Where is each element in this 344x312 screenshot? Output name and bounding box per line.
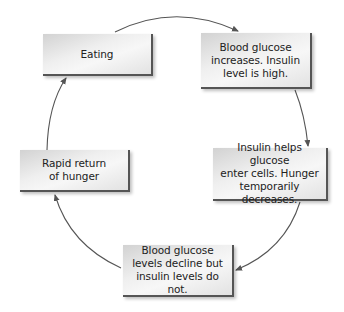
- node-insulin-helps-label: Insulin helps glucose enter cells. Hunge…: [217, 141, 322, 206]
- node-glucose-declines-label: Blood glucose levels decline but insulin…: [127, 244, 228, 296]
- arrow-glucose-increases-to-insulin-helps: [295, 90, 308, 146]
- node-insulin-helps: Insulin helps glucose enter cells. Hunge…: [213, 148, 328, 201]
- arrow-glucose-declines-to-hunger-returns: [55, 195, 121, 268]
- arrow-eating-to-glucose-increases: [115, 17, 238, 32]
- node-glucose-increases-label: Blood glucose increases. Insulin level i…: [211, 41, 300, 80]
- arrow-insulin-helps-to-glucose-declines: [236, 202, 300, 270]
- arrow-hunger-returns-to-eating: [47, 78, 66, 150]
- node-eating-label: Eating: [81, 48, 114, 61]
- node-glucose-increases: Blood glucose increases. Insulin level i…: [201, 33, 312, 89]
- node-hunger-returns-label: Rapid return of hunger: [42, 157, 106, 183]
- node-glucose-declines: Blood glucose levels decline but insulin…: [123, 245, 234, 297]
- node-eating: Eating: [43, 34, 153, 76]
- node-hunger-returns: Rapid return of hunger: [20, 150, 130, 192]
